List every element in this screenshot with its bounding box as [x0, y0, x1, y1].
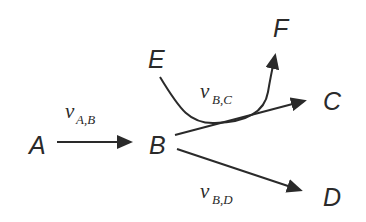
edge-label-b-c: v B,C — [200, 79, 232, 107]
node-d: D — [323, 183, 341, 211]
node-e: E — [148, 45, 165, 73]
edge-b-to-d — [177, 149, 300, 190]
node-a: A — [27, 131, 46, 159]
node-c: C — [323, 87, 342, 115]
node-f: F — [273, 14, 290, 42]
edge-label-a-b-var: v — [65, 99, 75, 123]
edge-label-b-d: v B,D — [200, 179, 233, 207]
edge-label-b-c-var: v — [200, 79, 210, 103]
edge-label-b-c-sub: B,C — [212, 92, 232, 107]
node-b: B — [149, 131, 166, 159]
edge-label-a-b: v A,B — [65, 99, 95, 127]
flow-diagram: A B C D E F v A,B v B,C v B,D — [0, 0, 366, 222]
edge-label-a-b-sub: A,B — [75, 112, 95, 127]
edge-label-b-d-var: v — [200, 179, 210, 203]
edge-label-b-d-sub: B,D — [212, 192, 233, 207]
